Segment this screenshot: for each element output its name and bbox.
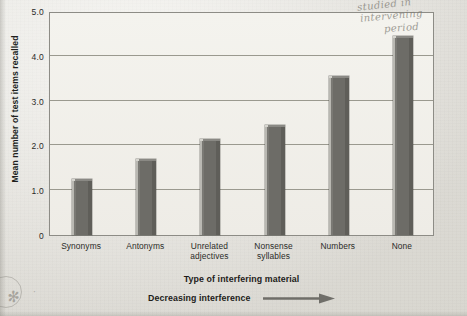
y-axis-title: Mean number of test items recalled bbox=[10, 24, 20, 194]
y-axis-tick-label: 1.0 bbox=[0, 186, 44, 196]
bar-rect bbox=[265, 125, 285, 235]
plot-area bbox=[49, 12, 434, 236]
decreasing-interference-caption: Decreasing interference bbox=[49, 293, 434, 304]
x-axis-tick-line: syllables bbox=[231, 251, 317, 261]
bar-rect bbox=[136, 159, 156, 235]
bar-rect bbox=[393, 36, 413, 235]
page-bottom-edge-shadow bbox=[0, 311, 467, 316]
bar-rect bbox=[200, 139, 220, 235]
y-axis-tick-label: 3.0 bbox=[0, 97, 44, 107]
y-axis-tick-label: 5.0 bbox=[0, 7, 44, 17]
bar-rect bbox=[329, 76, 349, 235]
page-left-edge-shadow bbox=[0, 0, 6, 316]
x-axis-tick-line: None bbox=[359, 241, 445, 251]
x-axis-tick-label: None bbox=[359, 241, 445, 251]
y-axis-tick-label: 0 bbox=[0, 231, 44, 241]
bar-series bbox=[50, 13, 433, 235]
handwritten-dot-mark: · bbox=[33, 287, 36, 297]
bar-rect bbox=[72, 179, 92, 235]
right-arrow-icon bbox=[263, 293, 335, 304]
y-axis-tick-label: 4.0 bbox=[0, 52, 44, 62]
x-axis-title: Type of interfering material bbox=[49, 274, 434, 284]
interference-label-text: Decreasing interference bbox=[148, 293, 251, 303]
y-axis-tick-label: 2.0 bbox=[0, 141, 44, 151]
